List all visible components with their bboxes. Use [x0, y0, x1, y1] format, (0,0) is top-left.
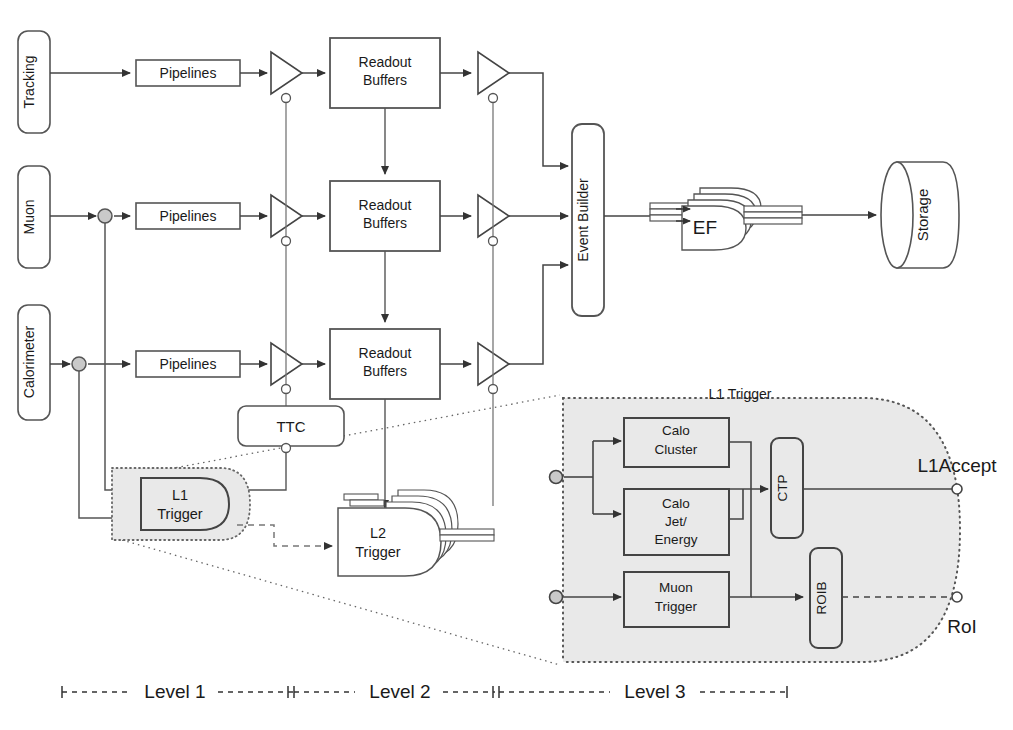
readout-buffers-tracking[interactable]: Readout Buffers: [330, 38, 440, 108]
calo-input-terminal: [550, 471, 563, 484]
gate-eb-tracking[interactable]: [478, 52, 509, 103]
l1accept-label: L1Accept: [917, 455, 997, 476]
detector-muon[interactable]: Muon: [18, 166, 50, 268]
figure-canvas: L1 Trigger Calo Cluster Calo Jet/ Energy…: [0, 0, 1013, 730]
pipelines-tracking[interactable]: Pipelines: [136, 60, 240, 86]
pipelines-muon-label: Pipelines: [160, 208, 217, 224]
l2-rail-top-2: [350, 500, 384, 506]
calo-cluster-line1: Calo: [662, 423, 690, 438]
roi-terminal: [952, 592, 962, 602]
ttc-block[interactable]: TTC: [238, 406, 344, 446]
calo-branch-dot: [72, 357, 86, 371]
pipelines-calorimeter-label: Pipelines: [160, 356, 217, 372]
l1accept-terminal: [952, 484, 962, 494]
gate-enable-bubble: [489, 237, 498, 246]
readout-buffers-line2: Buffers: [363, 72, 407, 88]
ef-output-rail-3: [744, 218, 802, 224]
l1-trigger-line2: Trigger: [157, 506, 203, 522]
level-markers: Level 1 Level 2 Level 3: [62, 681, 787, 702]
roi-label: RoI: [947, 616, 977, 637]
panel-shade: [563, 398, 960, 662]
gate-readout-tracking[interactable]: [271, 52, 302, 103]
ttc-output-bubble: [282, 444, 291, 453]
gate-enable-bubble: [282, 385, 291, 394]
detector-muon-label: Muon: [21, 199, 37, 234]
l2-rail-out-2: [440, 535, 494, 541]
block-calo-jet-energy[interactable]: Calo Jet/ Energy: [624, 489, 729, 555]
l1-small-body: [141, 478, 229, 530]
calo-jet-line3: Energy: [655, 532, 698, 547]
gate-enable-bubble: [489, 385, 498, 394]
level-2-label: Level 2: [369, 681, 430, 702]
level-3-label: Level 3: [624, 681, 685, 702]
block-calo-cluster[interactable]: Calo Cluster: [624, 418, 729, 467]
muon-trigger-line1: Muon: [659, 580, 693, 595]
calo-cluster-line2: Cluster: [655, 442, 698, 457]
l2-trigger-line2: Trigger: [355, 544, 401, 560]
detector-calorimeter[interactable]: Calorimeter: [18, 305, 50, 420]
calo-jet-line1: Calo: [662, 496, 690, 511]
ef-output-rail-2: [744, 212, 802, 218]
pipelines-tracking-label: Pipelines: [160, 65, 217, 81]
event-builder-label: Event Builder: [575, 178, 591, 262]
readout-buffers-line2: Buffers: [363, 215, 407, 231]
l1-trigger-small[interactable]: L1 Trigger: [112, 468, 250, 540]
storage-label: Storage: [914, 189, 931, 242]
ef-label: EF: [693, 217, 717, 238]
readout-buffers-line2: Buffers: [363, 363, 407, 379]
wire-gate3-eb: [509, 265, 568, 364]
gate-enable-bubble: [282, 237, 291, 246]
readout-buffers-line1: Readout: [359, 345, 412, 361]
storage-face: [881, 162, 913, 268]
l2-node-1: [338, 508, 441, 576]
ctp-label: CTP: [775, 475, 790, 502]
l2-trigger-line1: L2: [370, 525, 386, 541]
readout-buffers-muon[interactable]: Readout Buffers: [330, 181, 440, 251]
muon-branch-dot: [98, 209, 112, 223]
pipelines-muon[interactable]: Pipelines: [136, 203, 240, 229]
ef-farm[interactable]: EF: [650, 188, 802, 250]
muon-trigger-feed: [105, 223, 128, 490]
ef-output-rail-1: [744, 206, 802, 212]
gate-enable-bubble: [282, 94, 291, 103]
detector-tracking-label: Tracking: [21, 55, 37, 108]
panel-title: L1 Trigger: [708, 386, 771, 402]
readout-buffers-line1: Readout: [359, 54, 412, 70]
trigger-daq-diagram: L1 Trigger Calo Cluster Calo Jet/ Energy…: [0, 0, 1013, 730]
l2-trigger-farm[interactable]: L2 Trigger: [338, 490, 494, 576]
gate-enable-bubble: [489, 94, 498, 103]
storage[interactable]: Storage: [881, 162, 959, 268]
l1-trigger-line1: L1: [172, 487, 188, 503]
l2-rail-top-1: [344, 494, 378, 500]
level-1-label: Level 1: [144, 681, 205, 702]
readout-buffers-line1: Readout: [359, 197, 412, 213]
muon-input-terminal: [550, 591, 563, 604]
pipelines-calorimeter[interactable]: Pipelines: [136, 351, 240, 377]
readout-buffers-calorimeter[interactable]: Readout Buffers: [330, 329, 440, 399]
wire-l1-roi-to-l2: [237, 525, 332, 546]
l2-rail-out-1: [440, 529, 494, 535]
detector-tracking[interactable]: Tracking: [18, 31, 50, 133]
block-ctp[interactable]: CTP: [771, 438, 803, 538]
wire-gate1-eb: [509, 73, 568, 166]
detector-calorimeter-label: Calorimeter: [21, 325, 37, 398]
block-roib[interactable]: ROIB: [810, 548, 842, 648]
event-builder[interactable]: Event Builder: [572, 124, 604, 316]
block-muon-trigger[interactable]: Muon Trigger: [624, 572, 729, 627]
roib-label: ROIB: [814, 581, 829, 614]
calo-jet-line2: Jet/: [665, 514, 687, 529]
muon-trigger-line2: Trigger: [655, 599, 698, 614]
ttc-label: TTC: [276, 418, 305, 435]
